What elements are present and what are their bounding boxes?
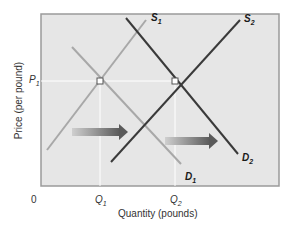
p1-tick-sub: 1 bbox=[36, 80, 40, 87]
d2-label: D2 bbox=[242, 152, 253, 165]
d1-label-sub: 1 bbox=[192, 177, 196, 184]
y-axis-title: Price (per pound) bbox=[13, 51, 24, 151]
s1-label: S1 bbox=[151, 12, 162, 25]
origin-label: 0 bbox=[31, 194, 37, 205]
q2-tick-main: Q bbox=[170, 194, 178, 205]
equilibrium-2-marker bbox=[172, 78, 178, 84]
q1-tick-main: Q bbox=[95, 194, 103, 205]
x-axis-title: Quantity (pounds) bbox=[118, 208, 198, 219]
d2-label-sub: 2 bbox=[249, 158, 253, 165]
s2-label-sub: 2 bbox=[251, 19, 255, 26]
supply-demand-chart bbox=[0, 0, 288, 231]
p1-tick-label: P1 bbox=[29, 74, 40, 87]
s1-label-sub: 1 bbox=[158, 18, 162, 25]
d1-label: D1 bbox=[185, 171, 196, 184]
equilibrium-1-marker bbox=[97, 78, 103, 84]
q2-tick-sub: 2 bbox=[178, 200, 182, 207]
s1-label-main: S bbox=[151, 12, 158, 23]
p1-tick-main: P bbox=[29, 74, 36, 85]
s2-label-main: S bbox=[244, 13, 251, 24]
s2-label: S2 bbox=[244, 13, 255, 26]
q1-tick-sub: 1 bbox=[103, 200, 107, 207]
q2-tick-label: Q2 bbox=[170, 194, 182, 207]
q1-tick-label: Q1 bbox=[95, 194, 107, 207]
